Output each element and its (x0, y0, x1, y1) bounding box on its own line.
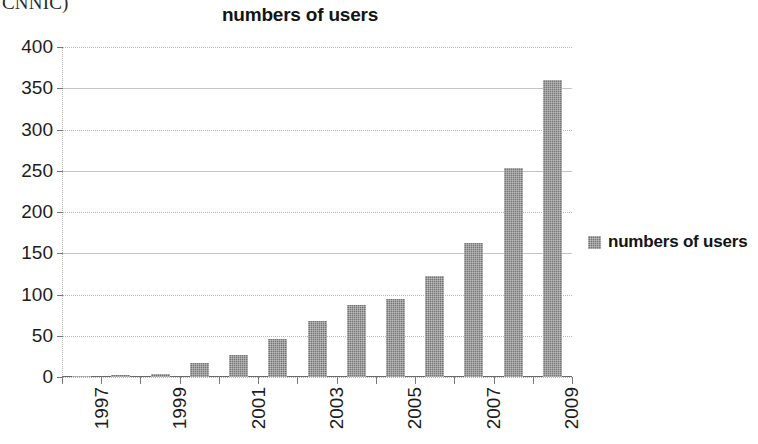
bar-1997 (72, 376, 91, 378)
bar-2008 (504, 168, 523, 377)
x-tick (415, 377, 416, 384)
plot-area: 050100150200250300350400 199719992001200… (62, 47, 572, 377)
y-axis-label: 50 (32, 325, 53, 347)
x-axis-label: 2007 (483, 387, 505, 429)
gridline-0 (62, 377, 572, 378)
y-axis-label: 150 (21, 242, 53, 264)
x-tick (572, 377, 573, 384)
x-tick (62, 377, 63, 384)
bar-2003 (308, 321, 327, 377)
x-tick (219, 377, 220, 384)
chart-title: numbers of users (0, 4, 600, 26)
y-axis-label: 100 (21, 284, 53, 306)
legend-swatch-icon (588, 236, 601, 249)
bar-2006 (425, 276, 444, 377)
x-tick (533, 377, 534, 384)
bar-2005 (386, 299, 405, 377)
bar-2002 (268, 339, 287, 377)
x-axis-label: 1999 (169, 387, 191, 429)
x-tick (101, 377, 102, 384)
y-axis-label: 200 (21, 201, 53, 223)
y-axis-label: 300 (21, 119, 53, 141)
bar-chart: numbers of users 05010015020025030035040… (0, 0, 758, 444)
chart-legend: numbers of users (588, 232, 747, 252)
y-axis-label: 250 (21, 160, 53, 182)
x-tick (180, 377, 181, 384)
x-axis-label: 2003 (326, 387, 348, 429)
legend-label: numbers of users (608, 232, 747, 252)
bar-series (62, 47, 572, 377)
bar-2001 (229, 355, 248, 377)
x-axis-label: 1997 (91, 387, 113, 429)
x-tick (140, 377, 141, 384)
x-tick (258, 377, 259, 384)
y-axis-label: 0 (42, 366, 53, 388)
y-axis-label: 400 (21, 36, 53, 58)
bar-2004 (347, 305, 366, 377)
bar-2007 (464, 243, 483, 377)
bar-2009 (543, 80, 562, 377)
x-tick (297, 377, 298, 384)
x-axis-label: 2001 (248, 387, 270, 429)
bar-1999 (151, 374, 170, 377)
x-axis-label: 2005 (404, 387, 426, 429)
bar-1998 (111, 375, 130, 377)
bar-2000 (190, 363, 209, 377)
x-tick (494, 377, 495, 384)
y-axis-label: 350 (21, 77, 53, 99)
x-axis-label: 2009 (561, 387, 583, 429)
x-tick (337, 377, 338, 384)
x-tick (376, 377, 377, 384)
x-tick (454, 377, 455, 384)
